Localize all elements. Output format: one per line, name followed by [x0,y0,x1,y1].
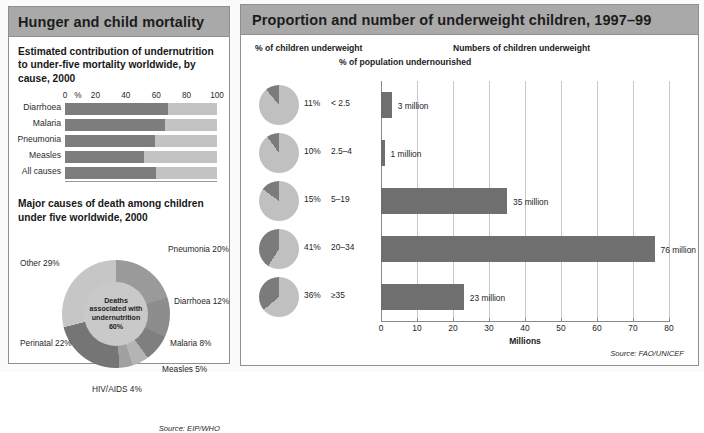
mini-pie-chart [259,181,299,221]
column-header-bars: Numbers of children underweight [453,43,590,53]
underweight-x-tickmark [417,318,418,322]
bar-tick-20: 20 [91,91,100,100]
bar-fill [65,119,165,131]
column-header-pies: % of children underweight [255,43,362,54]
mini-pie-percent: 41% [304,242,321,252]
underweight-x-tick-20: 20 [448,323,457,333]
row-category-label: 5–19 [331,194,350,204]
underweight-row: 11%< 2.5 [241,81,700,129]
bar-row-label-pneumonia: Pneumonia [18,134,61,144]
row-category-label: < 2.5 [331,98,350,108]
left-source-note: Source: EIP/WHO [159,424,220,433]
row-category-label: 20–34 [331,242,354,252]
pie-label-measles: Measles 5% [162,364,207,374]
bar-tick-80: 80 [182,91,191,100]
underweight-x-tick-70: 70 [628,323,637,333]
mini-pie-chart [259,277,299,317]
pie-label-hivaids: HIV/AIDS 4% [92,384,142,394]
left-panel-header: Hunger and child mortality [9,7,229,37]
bar-fill [65,167,156,179]
bar-fill [65,135,155,147]
underweight-row: 41%20–34 [241,225,700,273]
underweight-x-axis-label: Millions [381,336,669,346]
right-panel: Proportion and number of underweight chi… [240,4,699,366]
bar-track [65,135,217,147]
underweight-x-tick-50: 50 [556,323,565,333]
underweight-x-tickmark [597,318,598,322]
bar-track [65,151,217,163]
row-category-label: 2.5–4 [331,146,352,156]
pie-label-pneumonia: Pneumonia 20% [168,244,229,254]
bar-gridline [217,103,218,181]
underweight-x-tickmark [489,318,490,322]
undernutrition-bar-chart: 020406080100% DiarrhoeaMalariaPneumoniaM… [18,91,222,183]
bar-row-label-measles: Measles [29,150,61,160]
pie-chart-title: Major causes of death among children und… [18,197,220,224]
left-panel: Hunger and child mortality Estimated con… [8,6,230,364]
underweight-row: 36%≥35 [241,273,700,321]
bar-fill [65,103,168,115]
bar-row-label-all-causes: All causes [22,166,61,176]
bar-row: Malaria [65,119,217,131]
underweight-x-tickmark [561,318,562,322]
underweight-x-tick-0: 0 [379,323,384,333]
bar-tick-0: 0 [63,91,68,100]
mini-pie-chart [259,229,299,269]
right-panel-body: % of children underweight % of populatio… [241,35,698,366]
bar-axis-unit: % [74,91,81,100]
underweight-rows: 11%< 2.510%2.5–415%5–1941%20–3436%≥35 [241,81,700,321]
column-header-categories: % of population undernourished [339,57,471,67]
mini-pie-percent: 15% [304,194,321,204]
underweight-x-tickmark [453,318,454,322]
bar-tick-40: 40 [121,91,130,100]
underweight-x-tick-80: 80 [664,323,673,333]
causes-of-death-pie-chart: Deaths associated with undernutrition 60… [18,234,222,429]
right-panel-header: Proportion and number of underweight chi… [241,5,698,35]
underweight-x-tickmark [669,318,670,322]
bar-row: All causes [65,167,217,179]
row-category-label: ≥35 [331,290,345,300]
pie-label-perinatal: Perinatal 22% [20,338,72,348]
bar-tick-60: 60 [152,91,161,100]
underweight-x-axis: Millions 01020304050607080 [381,323,669,349]
mini-pie-chart [259,85,299,125]
mini-pie-chart [259,133,299,173]
pie-label-diarrhoea: Diarrhoea 12% [174,296,229,306]
underweight-row: 15%5–19 [241,177,700,225]
bar-chart-plot: DiarrhoeaMalariaPneumoniaMeaslesAll caus… [65,103,217,181]
bar-row-label-malaria: Malaria [33,118,61,128]
bar-chart-title: Estimated contribution of undernutrition… [18,45,220,85]
bar-track [65,103,217,115]
mini-pie-percent: 10% [304,146,321,156]
underweight-x-tick-40: 40 [520,323,529,333]
underweight-x-tick-60: 60 [592,323,601,333]
bar-row: Pneumonia [65,135,217,147]
underweight-x-tickmark [633,318,634,322]
bar-track [65,119,217,131]
bar-row: Diarrhoea [65,103,217,115]
mini-pie-percent: 36% [304,290,321,300]
underweight-x-tick-10: 10 [412,323,421,333]
right-source-note: Source: FAO/UNICEF [610,349,684,358]
underweight-row: 10%2.5–4 [241,129,700,177]
mini-pie-percent: 11% [304,98,320,108]
bar-chart-baseline [65,181,217,182]
pie-center-disc: Deaths associated with undernutrition 60… [84,282,148,346]
left-panel-body: Estimated contribution of undernutrition… [9,37,229,364]
bar-row: Measles [65,151,217,163]
underweight-x-tick-30: 30 [484,323,493,333]
underweight-x-tickmark [525,318,526,322]
bar-fill [65,151,144,163]
bar-tick-100: 100 [210,91,224,100]
pie-label-malaria: Malaria 8% [170,338,212,348]
pie-label-other: Other 29% [20,258,60,268]
underweight-x-tickmark [381,318,382,322]
pie-center-label: Deaths associated with undernutrition 60… [84,297,148,331]
bar-track [65,167,217,179]
bar-row-label-diarrhoea: Diarrhoea [23,102,61,112]
